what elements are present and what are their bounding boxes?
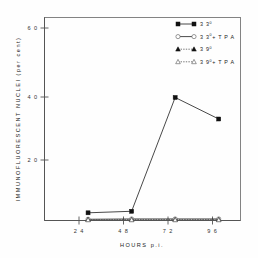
x-axis-title: HOURS p.i. [120, 242, 164, 248]
y-ticklabel-20: 2 0 [28, 157, 38, 163]
y-ticklabel-40: 4 0 [28, 94, 38, 100]
legend-item-2[interactable]: 3 90 [176, 46, 213, 52]
series-line-0 [88, 97, 219, 212]
legend-item-0[interactable]: 3 30 [176, 21, 212, 27]
y-axis-title: IMMUNOFLUORESCENT NUCLEI (per cent) [15, 37, 21, 202]
data-point-0-3 [217, 117, 221, 121]
legend-marker-left-3 [176, 59, 181, 63]
series-0 [86, 95, 221, 214]
chart-legend: 3 303 30+ T P A3 903 90+ T P A [176, 21, 235, 65]
legend-marker-left-1 [176, 35, 180, 39]
legend-item-3[interactable]: 3 90+ T P A [176, 59, 235, 65]
chart-svg: 2 0 4 0 6 0 2 4 4 8 7 2 9 6 HOURS p.i. I… [0, 0, 258, 258]
x-axis-ticklabels: 2 4 4 8 7 2 9 6 [74, 228, 218, 234]
x-ticklabel-96: 9 6 [207, 228, 217, 234]
legend-marker-left-0 [176, 22, 180, 26]
legend-label-0: 3 30 [200, 21, 212, 27]
data-point-0-0 [86, 211, 90, 215]
y-axis-ticklabels: 2 0 4 0 6 0 [28, 25, 38, 163]
legend-marker-right-0 [192, 22, 196, 26]
legend-marker-right-1 [192, 35, 196, 39]
series-3 [86, 217, 221, 221]
x-ticklabel-24: 2 4 [74, 228, 84, 234]
legend-marker-left-2 [176, 47, 181, 51]
data-point-0-1 [130, 209, 134, 213]
legend-label-3: 3 90+ T P A [200, 59, 235, 65]
y-ticklabel-60: 6 0 [28, 25, 38, 31]
plot-data-layer [86, 95, 221, 221]
legend-label-2: 3 90 [200, 46, 212, 52]
legend-item-1[interactable]: 3 30+ T P A [176, 33, 235, 39]
data-point-0-2 [173, 95, 177, 99]
x-ticklabel-72: 7 2 [163, 228, 173, 234]
x-ticklabel-48: 4 8 [118, 228, 128, 234]
chart-figure: 2 0 4 0 6 0 2 4 4 8 7 2 9 6 HOURS p.i. I… [0, 0, 258, 258]
legend-label-1: 3 30+ T P A [200, 33, 235, 39]
